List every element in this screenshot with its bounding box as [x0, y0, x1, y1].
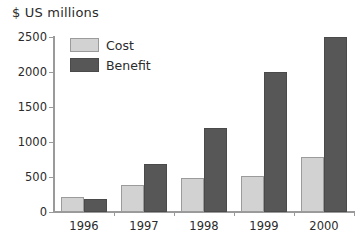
legend-swatch-cost-icon	[70, 38, 99, 52]
legend-label-cost: Cost	[106, 38, 134, 53]
y-tick-mark	[49, 107, 54, 108]
y-tick-label: 500	[25, 170, 47, 184]
bar-benefit-1996	[84, 199, 107, 212]
bar-cost-1999	[241, 176, 264, 212]
y-tick-mark	[49, 177, 54, 178]
y-tick-label: 2000	[18, 65, 47, 79]
bar-group: 2000	[301, 37, 347, 212]
y-tick-label: 1500	[18, 100, 47, 114]
legend-swatch-benefit-icon	[70, 58, 99, 72]
bar-benefit-1997	[144, 164, 167, 212]
bar-benefit-2000	[324, 37, 347, 212]
chart-legend: Cost Benefit	[70, 36, 151, 76]
bar-group: 1998	[181, 37, 227, 212]
x-tick-mark	[174, 212, 175, 216]
chart-title: $ US millions	[12, 5, 99, 20]
y-tick-label: 1000	[18, 135, 47, 149]
y-tick-mark	[49, 37, 54, 38]
y-tick-mark	[49, 142, 54, 143]
bar-cost-1996	[61, 197, 84, 212]
x-tick-label: 1999	[249, 219, 278, 233]
bar-benefit-1999	[264, 72, 287, 212]
legend-item-cost: Cost	[70, 36, 151, 54]
x-tick-mark	[354, 212, 355, 216]
x-tick-label: 1998	[189, 219, 218, 233]
bar-chart: $ US millions 05001000150020002500199619…	[0, 0, 364, 251]
bar-cost-1997	[121, 185, 144, 212]
bar-cost-2000	[301, 157, 324, 212]
legend-label-benefit: Benefit	[106, 58, 151, 73]
x-tick-label: 2000	[309, 219, 338, 233]
y-tick-mark	[49, 72, 54, 73]
x-tick-mark	[114, 212, 115, 216]
x-tick-label: 1996	[69, 219, 98, 233]
x-tick-mark	[234, 212, 235, 216]
x-tick-label: 1997	[129, 219, 158, 233]
y-tick-mark	[49, 212, 54, 213]
bar-cost-1998	[181, 178, 204, 212]
y-tick-label: 2500	[18, 30, 47, 44]
bar-benefit-1998	[204, 128, 227, 212]
x-tick-mark	[294, 212, 295, 216]
bar-group: 1999	[241, 37, 287, 212]
y-tick-label: 0	[40, 205, 47, 219]
legend-item-benefit: Benefit	[70, 56, 151, 74]
